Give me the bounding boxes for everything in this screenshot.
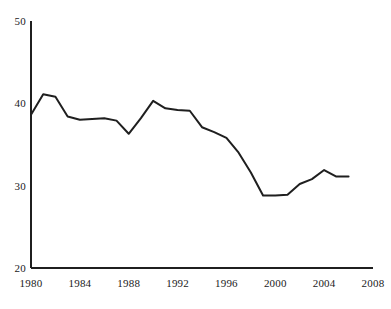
x-tick-label: 1992 bbox=[166, 278, 189, 289]
y-tick-label: 50 bbox=[0, 16, 26, 27]
line-chart: 20304050 1980198419881992199620002004200… bbox=[0, 0, 391, 309]
data-series-group bbox=[31, 94, 349, 195]
x-tick-label: 1980 bbox=[20, 278, 43, 289]
x-tick-label: 1988 bbox=[117, 278, 140, 289]
x-tick-label: 1996 bbox=[215, 278, 238, 289]
axes-group bbox=[31, 21, 373, 268]
chart-plot-area bbox=[0, 0, 391, 309]
x-tick-label: 2000 bbox=[264, 278, 287, 289]
data-line-series-1 bbox=[31, 94, 349, 195]
y-tick-label: 20 bbox=[0, 263, 26, 274]
x-tick-label: 2008 bbox=[362, 278, 385, 289]
y-tick-label: 40 bbox=[0, 98, 26, 109]
x-tick-label: 1984 bbox=[68, 278, 91, 289]
x-tick-label: 2004 bbox=[313, 278, 336, 289]
y-tick-label: 30 bbox=[0, 180, 26, 191]
